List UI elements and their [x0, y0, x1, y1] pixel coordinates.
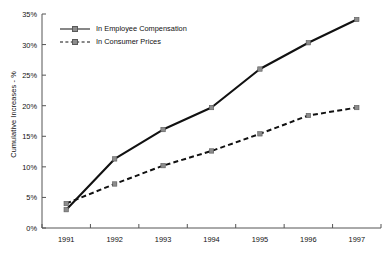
- y-axis-tick-label: 10%: [7, 162, 37, 171]
- data-point-marker: [64, 201, 68, 205]
- data-point-marker: [355, 105, 359, 109]
- x-axis-tick-label: 1997: [337, 235, 377, 244]
- legend-label: In Consumer Prices: [96, 38, 161, 45]
- series-line-2: [66, 108, 357, 204]
- y-axis-tick-label: 30%: [7, 40, 37, 49]
- y-axis-tick-label: 5%: [7, 193, 37, 202]
- data-point-marker: [258, 67, 262, 71]
- x-axis-tick-label: 1991: [46, 235, 86, 244]
- x-axis-tick-label: 1993: [143, 235, 183, 244]
- y-axis-tick-label: 15%: [7, 132, 37, 141]
- data-point-marker: [161, 127, 165, 131]
- y-axis-tick-label: 25%: [7, 71, 37, 80]
- data-point-marker: [209, 149, 213, 153]
- x-axis-tick-label: 1994: [192, 235, 232, 244]
- legend-item: In Employee Compensation: [60, 22, 187, 35]
- data-point-marker: [306, 41, 310, 45]
- legend-line-swatch: [60, 37, 90, 47]
- data-point-marker: [64, 207, 68, 211]
- legend-item: In Consumer Prices: [60, 35, 187, 48]
- legend-marker-icon: [72, 26, 78, 32]
- y-axis-tick-label: 35%: [7, 10, 37, 19]
- x-axis-tick-label: 1992: [95, 235, 135, 244]
- data-point-marker: [258, 132, 262, 136]
- line-chart: Cumulative Increases - % 0%5%10%15%20%25…: [0, 0, 389, 255]
- x-axis-tick-label: 1995: [240, 235, 280, 244]
- y-axis-tick-label: 20%: [7, 101, 37, 110]
- data-point-marker: [355, 17, 359, 21]
- data-point-marker: [209, 105, 213, 109]
- legend-line-swatch: [60, 24, 90, 34]
- chart-legend: In Employee CompensationIn Consumer Pric…: [60, 22, 187, 48]
- legend-label: In Employee Compensation: [96, 25, 187, 32]
- data-point-marker: [112, 182, 116, 186]
- x-axis-tick-label: 1996: [288, 235, 328, 244]
- data-point-marker: [112, 157, 116, 161]
- data-point-marker: [161, 163, 165, 167]
- data-point-marker: [306, 113, 310, 117]
- plot-area: [0, 0, 389, 255]
- legend-marker-icon: [72, 39, 78, 45]
- y-axis-tick-label: 0%: [7, 224, 37, 233]
